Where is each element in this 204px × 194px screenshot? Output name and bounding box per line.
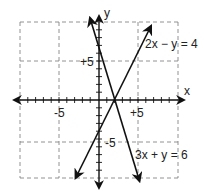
equation-label-2x-minus-y: 2x − y = 4 [145,37,198,51]
equation-label-3x-plus-y: 3x + y = 6 [135,148,188,162]
coordinate-plane: y x -5 +5 +5 -5 2x − y = 4 3x + y = 6 [0,0,204,194]
y-axis-label: y [104,6,110,20]
y-tick-label-pos5: +5 [80,55,94,69]
x-tick-label-neg5: -5 [54,106,65,120]
x-axis-label: x [184,84,190,98]
x-tick-label-pos5: +5 [130,106,144,120]
y-tick-label-neg5: -5 [105,136,116,150]
